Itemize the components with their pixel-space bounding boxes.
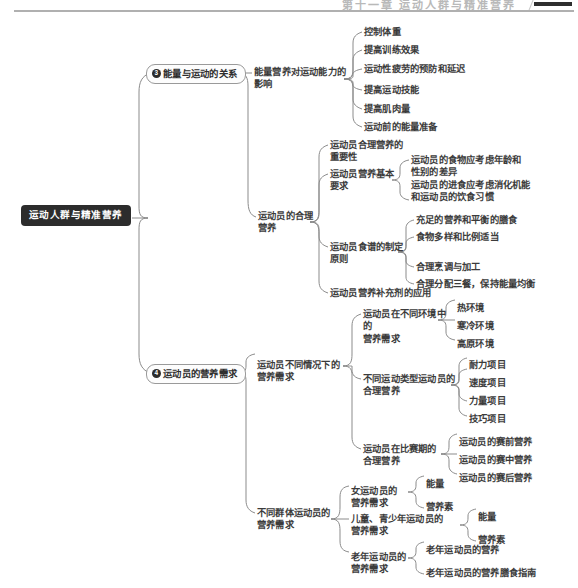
topic-youth-athletes-nutrition[interactable]: 儿童、青少年运动员的 营养需求 xyxy=(351,513,461,538)
leaf-pre-competition-nutrition[interactable]: 运动员的赛前营养 xyxy=(459,436,533,448)
root-node[interactable]: 运动人群与精准营养 xyxy=(22,206,130,225)
topic-nutrition-different-groups[interactable]: 不同群体运动员的 营养需求 xyxy=(257,507,343,532)
mindmap-page: 第十一章 运动人群与精准营养 xyxy=(0,0,578,588)
leaf-youth-energy[interactable]: 能量 xyxy=(478,511,496,523)
leaf-increase-muscle-mass[interactable]: 提高肌肉量 xyxy=(364,103,410,115)
leaf-cold-environment[interactable]: 寒冷环境 xyxy=(457,320,494,332)
leaf-fatigue-prevention[interactable]: 运动性疲劳的预防和延迟 xyxy=(364,63,465,75)
chapter-number-badge-3: 3 xyxy=(152,69,161,78)
leaf-during-competition-nutrition[interactable]: 运动员的赛中营养 xyxy=(459,454,533,466)
leaf-female-nutrients[interactable]: 营养素 xyxy=(426,501,454,513)
topic-athlete-rational-nutrition[interactable]: 运动员的合理 营养 xyxy=(258,210,318,235)
leaf-post-competition-nutrition[interactable]: 运动员的赛后营养 xyxy=(459,472,533,484)
leaf-food-age-gender-difference[interactable]: 运动员的食物应考虑年龄和 性别的差异 xyxy=(411,154,571,179)
leaf-strength-events[interactable]: 力量项目 xyxy=(469,395,506,407)
leaf-skill-events[interactable]: 技巧项目 xyxy=(469,413,506,425)
leaf-elderly-nutrition[interactable]: 老年运动员的营养 xyxy=(426,544,500,556)
topic-female-athletes-nutrition[interactable]: 女运动员的 营养需求 xyxy=(351,485,413,510)
chapter-label-3: 能量与运动的关系 xyxy=(163,68,237,80)
topic-elderly-athletes-nutrition[interactable]: 老年运动员的 营养需求 xyxy=(351,551,413,576)
leaf-improve-motor-skill[interactable]: 提高运动技能 xyxy=(364,84,419,96)
leaf-digestion-and-habits[interactable]: 运动员的进食应考虑消化机能 和运动员的饮食习惯 xyxy=(411,179,576,204)
topic-energy-nutrition-effect[interactable]: 能量营养对运动能力的 影响 xyxy=(254,66,346,91)
leaf-weight-control[interactable]: 控制体重 xyxy=(364,26,401,38)
chapter-number-badge-4: 4 xyxy=(152,369,161,378)
leaf-female-energy[interactable]: 能量 xyxy=(426,478,444,490)
topic-nutrition-various-conditions[interactable]: 运动员不同情况下的 营养需求 xyxy=(257,359,349,384)
topic-basic-nutrition-requirements[interactable]: 运动员营养基本 要求 xyxy=(330,168,404,193)
header-corner-mark xyxy=(534,2,572,6)
leaf-endurance-events[interactable]: 耐力项目 xyxy=(469,359,506,371)
chapter-node-3[interactable]: 3 能量与运动的关系 xyxy=(146,64,246,84)
leaf-speed-events[interactable]: 速度项目 xyxy=(469,377,506,389)
chapter-label-4: 运动员的营养需求 xyxy=(163,368,237,380)
leaf-elderly-dietary-guideline[interactable]: 老年运动员的营养膳食指南 xyxy=(426,567,536,579)
leaf-three-meals-balance[interactable]: 合理分配三餐，保持能量均衡 xyxy=(416,278,536,290)
chapter-node-4[interactable]: 4 运动员的营养需求 xyxy=(146,364,246,384)
topic-nutrition-in-environments[interactable]: 运动员在不同环境中的 营养需求 xyxy=(363,308,453,345)
topic-importance-of-rational-nutrition[interactable]: 运动员合理营养的 重要性 xyxy=(330,139,416,164)
leaf-plateau-environment[interactable]: 高原环境 xyxy=(457,338,494,350)
leaf-food-variety-proportion[interactable]: 食物多样和比例适当 xyxy=(416,231,499,243)
topic-diet-formulation-principles[interactable]: 运动员食谱的制定 原则 xyxy=(330,241,410,266)
leaf-improve-training-effect[interactable]: 提高训练效果 xyxy=(364,44,419,56)
leaf-sufficient-balanced-diet[interactable]: 充足的营养和平衡的膳食 xyxy=(416,214,517,226)
leaf-hot-environment[interactable]: 热环境 xyxy=(457,302,485,314)
leaf-reasonable-cooking[interactable]: 合理烹调与加工 xyxy=(416,261,480,273)
topic-nutrition-competition-period[interactable]: 运动员在比赛期的 合理营养 xyxy=(363,443,445,468)
header-rule xyxy=(14,10,574,12)
leaf-pre-exercise-energy[interactable]: 运动前的能量准备 xyxy=(364,121,438,133)
topic-nutrition-by-sport-type[interactable]: 不同运动类型运动员的 合理营养 xyxy=(363,373,459,398)
